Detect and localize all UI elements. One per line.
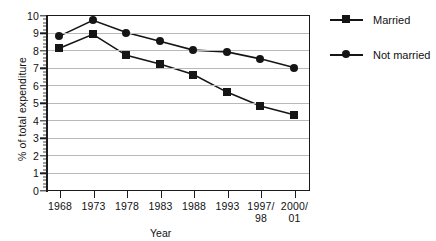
data-point-marker	[55, 32, 63, 40]
gridline	[48, 33, 309, 34]
y-axis-title: % of total expenditure	[16, 34, 28, 184]
x-tick-label: 1978	[115, 200, 139, 212]
x-tick-mark	[127, 191, 128, 198]
x-tick-label: 1997/ 98	[247, 200, 274, 224]
y-tick-label: 2	[33, 150, 39, 161]
y-tick-label: 7	[33, 63, 39, 74]
x-tick-mark	[261, 191, 262, 198]
gridline	[48, 120, 309, 121]
gridline	[48, 138, 309, 139]
data-point-marker	[156, 60, 164, 68]
data-point-marker	[189, 46, 197, 54]
x-tick-label: 1993	[215, 200, 239, 212]
x-tick-label: 1983	[148, 200, 172, 212]
data-point-marker	[89, 30, 97, 38]
data-point-marker	[122, 51, 130, 59]
legend-item[interactable]: Not married	[330, 47, 434, 63]
chart-legend: MarriedNot married	[330, 12, 434, 82]
x-tick-label: 2000/ 01	[281, 200, 308, 224]
gridline	[48, 155, 309, 156]
plot-area	[47, 15, 310, 191]
y-tick-label: 0	[33, 185, 39, 196]
y-tick-label: 1	[33, 168, 39, 179]
data-point-marker	[290, 111, 298, 119]
data-point-marker	[156, 37, 164, 45]
x-tick-mark	[94, 191, 95, 198]
x-tick-mark	[228, 191, 229, 198]
y-tick-label: 9	[33, 28, 39, 39]
x-tick-mark	[295, 191, 296, 198]
x-tick-mark	[60, 191, 61, 198]
gridline	[48, 173, 309, 174]
data-point-marker	[122, 29, 130, 37]
x-tick-label: 1968	[48, 200, 72, 212]
y-tick-label: 8	[33, 45, 39, 56]
data-point-marker	[223, 48, 231, 56]
gridline	[48, 68, 309, 69]
y-tick-label: 6	[33, 80, 39, 91]
line-chart: 012345678910 % of total expenditure 1968…	[0, 0, 436, 241]
data-point-marker	[55, 44, 63, 52]
x-tick-mark	[161, 191, 162, 198]
legend-label: Married	[373, 12, 410, 28]
y-tick-label: 5	[33, 98, 39, 109]
x-tick-label: 1973	[81, 200, 105, 212]
x-tick-label: 1988	[182, 200, 206, 212]
square-marker-icon	[342, 15, 350, 23]
y-tick-label: 10	[27, 10, 39, 21]
legend-item[interactable]: Married	[330, 12, 434, 28]
y-tick-label: 3	[33, 133, 39, 144]
data-point-marker	[290, 64, 298, 72]
gridline	[48, 50, 309, 51]
x-axis-title: Year	[150, 227, 171, 239]
gridline	[48, 85, 309, 86]
data-point-marker	[189, 71, 197, 79]
data-point-marker	[89, 16, 97, 24]
data-point-marker	[256, 102, 264, 110]
data-point-marker	[223, 88, 231, 96]
x-tick-mark	[194, 191, 195, 198]
data-point-marker	[256, 55, 264, 63]
circle-marker-icon	[342, 50, 350, 58]
y-tick-label: 4	[33, 115, 39, 126]
gridline	[48, 103, 309, 104]
legend-label: Not married	[373, 47, 430, 63]
